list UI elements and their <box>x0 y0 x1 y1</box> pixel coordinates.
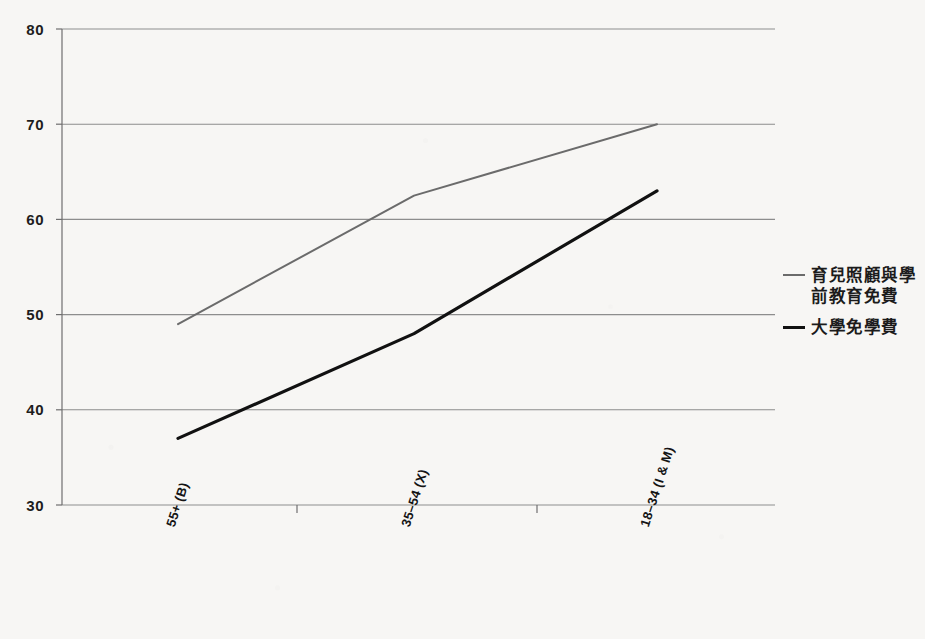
y-axis-label-60: 60 <box>2 211 44 228</box>
legend-line-swatch-childcare <box>783 274 805 276</box>
y-tick-marks <box>56 29 62 505</box>
series-line-childcare <box>178 124 657 324</box>
gridlines <box>62 29 775 505</box>
legend-entry-tuition: 大學免學費 <box>783 317 899 338</box>
y-axis-label-50: 50 <box>2 306 44 323</box>
y-axis-label-40: 40 <box>2 401 44 418</box>
y-axis-label-80: 80 <box>2 21 44 38</box>
legend-line-swatch-tuition <box>783 326 805 329</box>
y-axis-label-30: 30 <box>2 497 44 514</box>
y-axis-label-70: 70 <box>2 116 44 133</box>
legend-entry-childcare: 育兒照顧與學前教育免費 <box>783 265 925 308</box>
legend-label-tuition: 大學免學費 <box>811 317 899 338</box>
chart-container: 80 70 60 50 40 30 55+ (B) 35–54 (X) 18–3… <box>0 0 925 639</box>
legend-label-childcare: 育兒照顧與學前教育免費 <box>811 265 925 308</box>
